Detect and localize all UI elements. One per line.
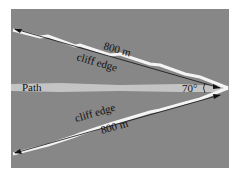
- path-label: Path: [22, 81, 42, 93]
- cliff-diagram: 800 m cliff edge Path 70° cliff edge 800…: [0, 0, 242, 177]
- angle-label: 70°: [182, 82, 197, 94]
